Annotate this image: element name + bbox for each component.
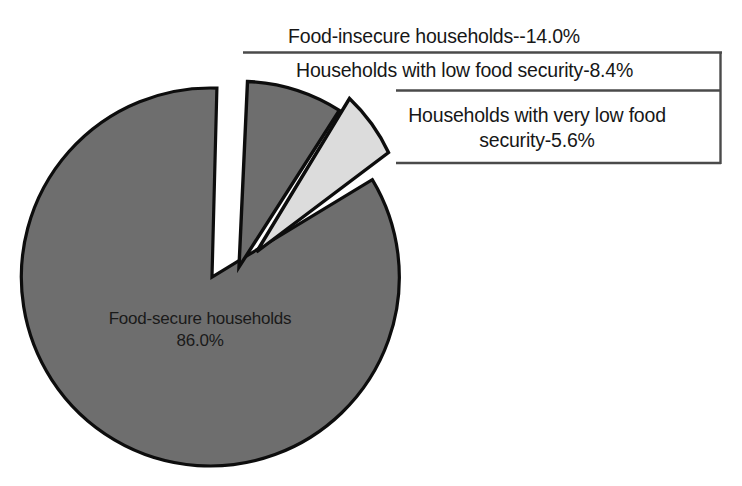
label-food-secure-line2: 86.0% xyxy=(176,331,223,350)
pie-chart-figure: Food-insecure households--14.0% Househol… xyxy=(0,0,742,486)
label-low-food-security: Households with low food security-8.4% xyxy=(296,59,633,82)
label-food-insecure-households: Food-insecure households--14.0% xyxy=(0,25,742,48)
label-very-low-food-security: Households with very low food security-5… xyxy=(372,103,702,153)
label-very-low-food-security-line1: Households with very low food xyxy=(408,104,666,126)
label-food-secure-households: Food-secure households 86.0% xyxy=(75,308,325,352)
label-food-insecure-text: Food-insecure households--14.0% xyxy=(288,25,580,48)
label-food-secure-line1: Food-secure households xyxy=(109,309,292,328)
label-very-low-food-security-line2: security-5.6% xyxy=(479,129,595,151)
